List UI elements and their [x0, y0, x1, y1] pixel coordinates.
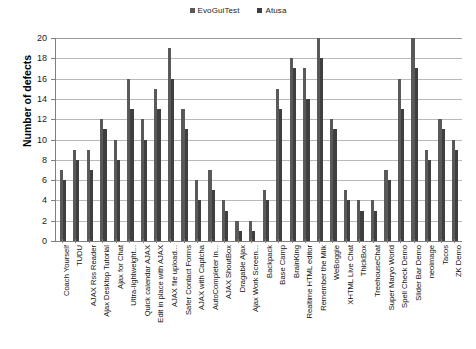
bar-atusa	[442, 129, 445, 241]
bar-group	[408, 38, 422, 241]
bar-atusa	[266, 200, 269, 241]
x-axis-tick-mark	[346, 239, 347, 243]
x-axis-label-cell: Coach Yourself	[55, 243, 69, 349]
x-axis-label-cell: Base Camp	[272, 243, 286, 349]
bar-chart: EvoGuiTest Atusa Number of defects 02468…	[0, 0, 476, 349]
x-axis-label-cell: Ultra-lightweight...	[123, 243, 137, 349]
legend-label-atusa: Atusa	[265, 6, 286, 15]
chart-legend: EvoGuiTest Atusa	[0, 6, 476, 15]
bar-group	[300, 38, 314, 241]
plot-area	[55, 38, 462, 242]
bar-atusa	[144, 140, 147, 242]
x-axis-tick-mark	[332, 239, 333, 243]
bar-atusa	[455, 150, 458, 241]
y-axis-tick-label: 4	[42, 195, 47, 205]
x-axis-label-cell: TUDU	[69, 243, 83, 349]
x-axis-label-cell: Safer Contact Forms	[177, 243, 191, 349]
x-axis-label-cell: Edit in place with AJAX	[150, 243, 164, 349]
x-axis-tick-mark	[414, 239, 415, 243]
x-axis-tick-mark	[62, 239, 63, 243]
y-axis-tick-label: 14	[37, 94, 47, 104]
y-axis-tick-label: 10	[37, 135, 47, 145]
bar-group	[245, 38, 259, 241]
x-axis-tick-mark	[224, 239, 225, 243]
bar-atusa	[333, 129, 336, 241]
x-axis-tick-mark	[211, 239, 212, 243]
x-axis-label-cell: Spell Check Demo	[393, 243, 407, 349]
legend-label-evoguitest: EvoGuiTest	[198, 6, 240, 15]
bar-group	[421, 38, 435, 241]
bar-group	[205, 38, 219, 241]
bar-group	[137, 38, 151, 241]
bar-group	[97, 38, 111, 241]
bar-atusa	[185, 129, 188, 241]
x-axis-label-cell: Ajax for Chat	[109, 243, 123, 349]
bar-group	[83, 38, 97, 241]
x-axis-label-cell: AJAX file upload...	[163, 243, 177, 349]
x-axis-label-cell: XHTML Live Chat	[339, 243, 353, 349]
x-axis-label-cell: Super Maryo World	[380, 243, 394, 349]
bar-group	[286, 38, 300, 241]
x-axis-tick-mark	[251, 239, 252, 243]
y-axis-tick-label: 12	[37, 114, 47, 124]
bar-atusa	[117, 160, 120, 241]
bar-group	[164, 38, 178, 241]
y-axis-tick-label: 20	[37, 33, 47, 43]
bar-atusa	[130, 109, 133, 241]
x-axis-label-cell: BrainKing	[285, 243, 299, 349]
x-axis-tick-mark	[89, 239, 90, 243]
bar-atusa	[360, 211, 363, 241]
x-axis-label-cell: WeBoggle	[326, 243, 340, 349]
x-axis-label-cell: ZK Demo	[447, 243, 461, 349]
legend-swatch-atusa	[257, 8, 262, 13]
bar-atusa	[63, 180, 66, 241]
bar-group	[56, 38, 70, 241]
x-axis-label-cell: Realtime HTML editor	[299, 243, 313, 349]
x-axis-label-cell: Slider Bar Demo	[407, 243, 421, 349]
x-axis-tick-mark	[278, 239, 279, 243]
x-axis-label-cell: AJAX ShoutBox	[217, 243, 231, 349]
bar-group	[381, 38, 395, 241]
x-axis-tick-mark	[197, 239, 198, 243]
x-axis-label-cell: Remember the Milk	[312, 243, 326, 349]
x-axis-tick-mark	[156, 239, 157, 243]
bar-atusa	[388, 180, 391, 241]
bar-group	[448, 38, 462, 241]
bar-group	[327, 38, 341, 241]
y-axis-tick-label: 0	[42, 236, 47, 246]
x-axis-tick-mark	[265, 239, 266, 243]
y-axis-tick-label: 2	[42, 216, 47, 226]
x-axis-label-cell: Quick calendar AJAX	[136, 243, 150, 349]
x-axis-tick-label: ZK Demo	[454, 245, 463, 277]
bar-group	[151, 38, 165, 241]
bar-group	[218, 38, 232, 241]
x-axis-label-cell: AutoCompleter in...	[204, 243, 218, 349]
bar-atusa	[239, 231, 242, 241]
legend-item-atusa: Atusa	[257, 6, 286, 15]
bar-group	[259, 38, 273, 241]
bar-atusa	[157, 109, 160, 241]
bar-group	[435, 38, 449, 241]
bar-atusa	[103, 129, 106, 241]
x-axis-label-cell: Backpack	[258, 243, 272, 349]
bar-atusa	[320, 58, 323, 241]
bar-group	[178, 38, 192, 241]
x-axis-tick-mark	[75, 239, 76, 243]
bar-group	[354, 38, 368, 241]
x-axis-tick-mark	[305, 239, 306, 243]
bar-atusa	[90, 170, 93, 241]
x-axis-tick-mark	[319, 239, 320, 243]
bar-atusa	[401, 109, 404, 241]
bar-atusa	[347, 200, 350, 241]
bar-atusa	[428, 160, 431, 241]
bar-atusa	[293, 68, 296, 241]
x-axis-tick-mark	[454, 239, 455, 243]
x-axis-tick-mark	[102, 239, 103, 243]
bar-group	[367, 38, 381, 241]
x-axis-label-cell: AJAX Rss Reader	[82, 243, 96, 349]
bar-group	[340, 38, 354, 241]
y-axis-labels: 02468101214161820	[0, 0, 55, 249]
x-axis-label-cell: Ajax Work Screen...	[244, 243, 258, 349]
bar-atusa	[279, 109, 282, 241]
x-axis-label-cell: Tacos	[434, 243, 448, 349]
